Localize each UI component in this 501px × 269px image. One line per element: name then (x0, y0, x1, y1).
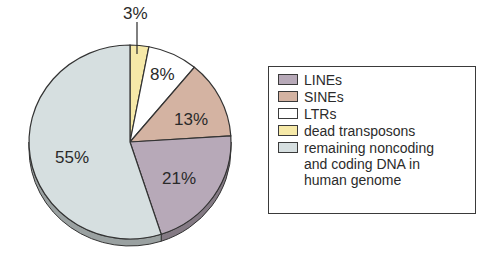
legend-item-dead-transposons: dead transposons (275, 123, 469, 139)
legend-label: dead transposons (304, 123, 415, 139)
legend-item-remaining: remaining noncoding and coding DNA in hu… (275, 140, 469, 188)
label-dead-transposons: 3% (123, 4, 148, 23)
label-ltrs: 8% (150, 65, 175, 84)
legend-label: LTRs (304, 106, 336, 122)
label-sines: 13% (174, 110, 208, 129)
swatch-sines (278, 91, 298, 102)
swatch-ltrs (278, 108, 298, 119)
pie-slices (29, 45, 231, 239)
swatch-lines (278, 74, 298, 85)
swatch-dead-transposons (278, 125, 298, 136)
legend-item-lines: LINEs (275, 72, 469, 88)
legend-label: remaining noncoding and coding DNA in hu… (304, 140, 434, 188)
label-remaining: 55% (55, 148, 89, 167)
swatch-remaining (278, 142, 298, 153)
legend: LINEs SINEs LTRs dead transposons remain… (268, 66, 476, 214)
legend-label: LINEs (304, 72, 342, 88)
legend-label: SINEs (304, 89, 344, 105)
label-lines: 21% (162, 169, 196, 188)
legend-item-ltrs: LTRs (275, 106, 469, 122)
legend-item-sines: SINEs (275, 89, 469, 105)
